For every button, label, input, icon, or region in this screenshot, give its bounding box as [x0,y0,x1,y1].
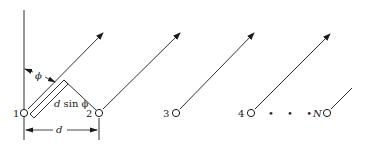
element-label-4: 4 [238,108,244,119]
element-label-n: N [312,108,323,119]
array-element-1 [20,109,27,116]
array-element-3 [172,109,179,116]
array-element-4 [247,109,254,116]
antenna-array-diagram: ϕ d sin ϕ d 1 2 3 4 • • • N [0,0,369,144]
ellipsis-dots: • • • [268,108,317,119]
element-label-1: 1 [13,108,19,119]
element-label-2: 2 [86,108,92,119]
angle-arrow-left [25,69,33,72]
angle-arrow-right [45,77,55,82]
path-difference-sin: sin ϕ [60,98,88,109]
angle-label: ϕ [35,70,42,81]
ray-arrow-4 [255,34,330,109]
element-label-3: 3 [163,108,169,119]
array-element-n [323,109,330,116]
spacing-label: d [56,124,62,135]
ray-line-n [331,88,352,109]
ray-arrow-3 [180,33,254,109]
array-element-2 [95,109,102,116]
path-difference-label: d sin ϕ [54,98,89,109]
ray-arrow-2 [103,33,180,109]
diagram-canvas: ϕ d sin ϕ d 1 2 3 4 • • • N [0,0,369,144]
